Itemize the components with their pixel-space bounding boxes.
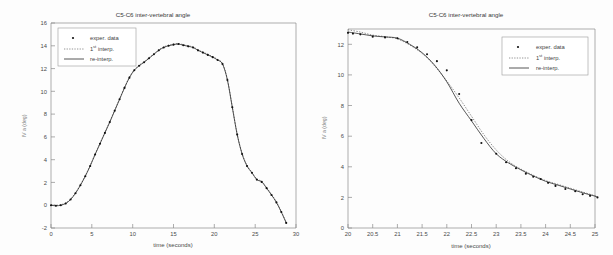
data-point (458, 93, 460, 95)
data-point (532, 176, 534, 178)
ytick-label: 16 (41, 20, 47, 26)
data-point (564, 188, 566, 190)
data-point (505, 161, 507, 163)
data-point (153, 53, 155, 55)
data-point (89, 165, 91, 167)
ytick-label: 0 (341, 225, 344, 231)
legend-label: re-interp. (536, 65, 560, 71)
chart-left-legend: exper. data 1 st interp. re-interp. (58, 28, 136, 66)
data-point (574, 190, 576, 192)
ytick-label: 10 (338, 72, 344, 78)
ytick-label: 6 (44, 134, 47, 140)
xtick-label: 22.5 (466, 231, 477, 237)
xtick-label: 30 (293, 231, 299, 237)
legend-marker-dot-icon (72, 37, 74, 39)
data-point (70, 198, 72, 200)
chart-right-ylabel: IV a (deg) (321, 116, 327, 139)
ytick-label: 12 (338, 42, 344, 48)
data-point (251, 172, 253, 174)
xtick-label: 15 (170, 231, 176, 237)
data-point (192, 46, 194, 48)
chart-right-xlabel: time (seconds) (451, 243, 490, 249)
ytick-label: 12 (41, 66, 47, 72)
data-point (123, 87, 125, 89)
data-point (384, 36, 386, 38)
data-point (84, 175, 86, 177)
xtick-label: 20.5 (367, 231, 378, 237)
ytick-label: 14 (41, 43, 48, 49)
chart-right-legend: exper. data 1 st interp. re-interp. (502, 37, 588, 75)
xtick-label: 22 (444, 231, 450, 237)
data-point (133, 69, 135, 71)
xtick-label: 5 (90, 231, 93, 237)
data-point (148, 57, 150, 59)
chart-right-title: C5-C6 inter-vertebral angle (429, 11, 504, 18)
data-point (74, 192, 76, 194)
chart-left-svg: C5-C6 inter-vertebral angle (0, 0, 306, 255)
data-point (182, 44, 184, 46)
data-point (99, 143, 101, 145)
chart-left-background (0, 0, 306, 255)
data-point (266, 187, 268, 189)
data-point (104, 132, 106, 134)
ytick-label: -2 (42, 225, 47, 231)
data-point (138, 65, 140, 67)
data-point (261, 181, 263, 183)
data-point (177, 43, 179, 45)
ytick-label: 8 (44, 111, 47, 117)
xtick-label: 21 (394, 231, 400, 237)
data-point (246, 165, 248, 167)
data-point (119, 98, 121, 100)
data-point (470, 119, 472, 121)
chart-right-svg: C5-C6 inter-vertebral angle 0 2 4 6 (306, 0, 613, 255)
legend-label: interp. (544, 55, 561, 61)
xtick-label: 24.5 (565, 231, 576, 237)
data-point (495, 153, 497, 155)
data-point (163, 46, 165, 48)
data-point (221, 63, 223, 65)
data-point (285, 222, 287, 224)
data-point (187, 45, 189, 47)
data-point (212, 56, 214, 58)
data-point (197, 49, 199, 51)
data-point (256, 179, 258, 181)
ytick-label: 10 (41, 89, 47, 95)
figure-sheet: C5-C6 inter-vertebral angle (0, 0, 613, 255)
data-point (589, 195, 591, 197)
data-point (202, 52, 204, 54)
xtick-label: 10 (129, 231, 135, 237)
data-point (396, 37, 398, 39)
xtick-label: 0 (49, 231, 52, 237)
ytick-label: 2 (341, 195, 344, 201)
ytick-label: 2 (44, 180, 47, 186)
data-point (372, 36, 374, 38)
xtick-label: 20 (211, 231, 217, 237)
data-point (275, 201, 277, 203)
data-point (270, 194, 272, 196)
data-point (226, 79, 228, 81)
data-point (236, 134, 238, 136)
data-point (525, 173, 527, 175)
data-point (55, 205, 57, 207)
data-point (217, 59, 219, 61)
data-point (547, 182, 549, 184)
data-point (406, 41, 408, 43)
xtick-label: 25 (252, 231, 258, 237)
chart-left-title: C5-C6 inter-vertebral angle (116, 11, 191, 18)
data-point (168, 45, 170, 47)
xtick-label: 21.5 (416, 231, 427, 237)
data-point (114, 110, 116, 112)
legend-marker-dot-icon (517, 46, 519, 48)
data-point (426, 53, 428, 55)
data-point (359, 33, 361, 35)
data-point (280, 211, 282, 213)
data-point (515, 167, 517, 169)
data-point (65, 202, 67, 204)
data-point (540, 178, 542, 180)
data-point (109, 121, 111, 123)
xtick-label: 23.5 (515, 231, 526, 237)
data-point (480, 142, 482, 144)
legend-label: re-interp. (90, 56, 114, 62)
data-point (50, 204, 52, 206)
xtick-label: 23 (493, 231, 499, 237)
